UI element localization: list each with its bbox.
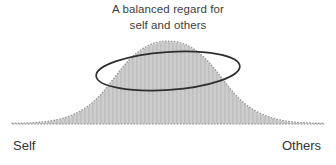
figure-canvas: A balanced regard for self and others Se…: [0, 0, 336, 165]
axis-label-others: Others: [282, 138, 321, 153]
bell-curve-area: [12, 41, 325, 124]
axis-label-self: Self: [13, 138, 35, 153]
bell-curve-fill: [12, 42, 324, 124]
